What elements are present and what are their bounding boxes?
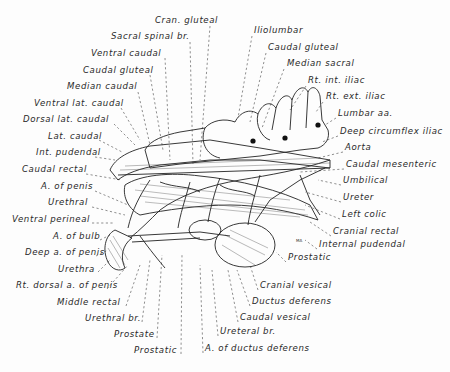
label-urethral-br: Urethral br.: [85, 313, 141, 323]
label-caudal-vesical: Caudal vesical: [240, 312, 311, 322]
label-rt-ext-iliac: Rt. ext. iliac: [326, 91, 386, 101]
label-lumbar-aa: Lumbar aa.: [338, 108, 393, 118]
label-internal-pudendal: Internal pudendal: [319, 239, 405, 249]
label-ureter: Ureter: [343, 192, 374, 202]
label-rt-int-iliac: Rt. int. iliac: [308, 75, 365, 85]
label-median-sacral: Median sacral: [287, 58, 354, 68]
label-caudal-mesenteric: Caudal mesenteric: [346, 159, 437, 169]
label-cranial-rectal: Cranial rectal: [333, 226, 399, 236]
label-ureteral-br: Ureteral br.: [220, 326, 276, 336]
label-rt-dorsal-a-of-penis: Rt. dorsal a. of penis: [16, 280, 118, 290]
label-dorsal-lat-caudal: Dorsal lat. caudal: [23, 114, 109, 124]
label-prostatic-right: Prostatic: [288, 252, 331, 262]
label-urethra: Urethra: [58, 264, 95, 274]
label-int-pudendal: Int. pudendal: [36, 147, 101, 157]
label-caudal-gluteal-right: Caudal gluteal: [268, 42, 339, 52]
label-iliolumbar: Iliolumbar: [254, 25, 303, 35]
label-aorta: Aorta: [345, 142, 371, 152]
label-cran-gluteal: Cran. gluteal: [155, 15, 218, 25]
label-prostate: Prostate: [114, 329, 155, 339]
label-deep-circumflex-iliac: Deep circumflex iliac: [340, 126, 443, 136]
label-lat-caudal: Lat. caudal: [48, 131, 102, 141]
label-ventral-caudal: Ventral caudal: [91, 48, 161, 58]
label-caudal-rectal: Caudal rectal: [22, 164, 87, 174]
penis-urethra: [105, 230, 230, 270]
label-ventral-perineal: Ventral perineal: [12, 214, 90, 224]
tail-region: [110, 140, 330, 180]
label-left-colic: Left colic: [342, 209, 387, 219]
label-ductus-deferens: Ductus deferens: [252, 296, 332, 306]
vertebrae: [145, 88, 329, 168]
label-a-of-ductus-deferens: A. of ductus deferens: [205, 343, 310, 353]
artist-initials: MA: [296, 238, 302, 243]
label-umbilical: Umbilical: [343, 175, 388, 185]
bladder-prostate: [189, 220, 275, 267]
label-caudal-gluteal-left: Caudal gluteal: [83, 65, 154, 75]
label-cranial-vesical: Cranial vesical: [260, 280, 332, 290]
label-median-caudal: Median caudal: [67, 81, 137, 91]
label-ventral-lat-caudal: Ventral lat. caudal: [34, 98, 124, 108]
anatomical-figure: MA Cran. gluteal Sacral spinal br. Ventr…: [0, 0, 450, 372]
label-sacral-spinal-br: Sacral spinal br.: [111, 31, 190, 41]
label-a-of-bulb: A. of bulb: [53, 231, 100, 241]
label-prostatic-bottom: Prostatic: [134, 345, 177, 355]
label-urethral: Urethral: [48, 197, 88, 207]
label-middle-rectal: Middle rectal: [57, 297, 121, 307]
label-a-of-penis: A. of penis: [41, 181, 93, 191]
rectum: [124, 174, 318, 220]
label-deep-a-of-penis: Deep a. of penis: [25, 247, 105, 257]
